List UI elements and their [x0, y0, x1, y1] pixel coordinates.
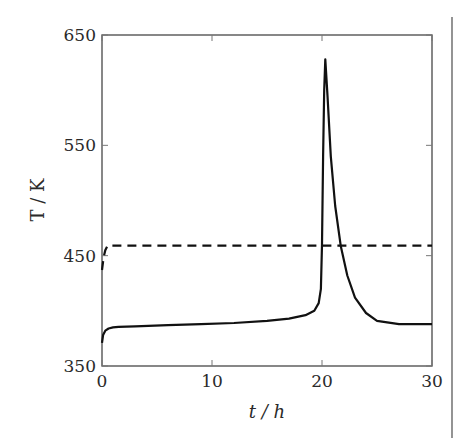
x-tick-label: 30 [421, 371, 443, 391]
tick-labels: 0102030350450550650 [64, 25, 443, 391]
x-axis-label: t / h [249, 401, 285, 422]
x-tick-label: 0 [97, 371, 108, 391]
x-tick-label: 20 [311, 371, 333, 391]
y-axis-label: T / K [27, 178, 48, 222]
y-tick-label: 350 [64, 356, 96, 376]
ticks [102, 35, 432, 366]
chart: 0102030350450550650 t / h T / K [0, 0, 462, 438]
x-tick-label: 10 [201, 371, 223, 391]
y-tick-label: 450 [64, 246, 96, 266]
y-tick-label: 550 [64, 135, 96, 155]
y-tick-label: 650 [64, 25, 96, 45]
series-dashed-line [102, 246, 432, 270]
series-solid-line [102, 59, 432, 343]
plot-frame [102, 35, 432, 366]
